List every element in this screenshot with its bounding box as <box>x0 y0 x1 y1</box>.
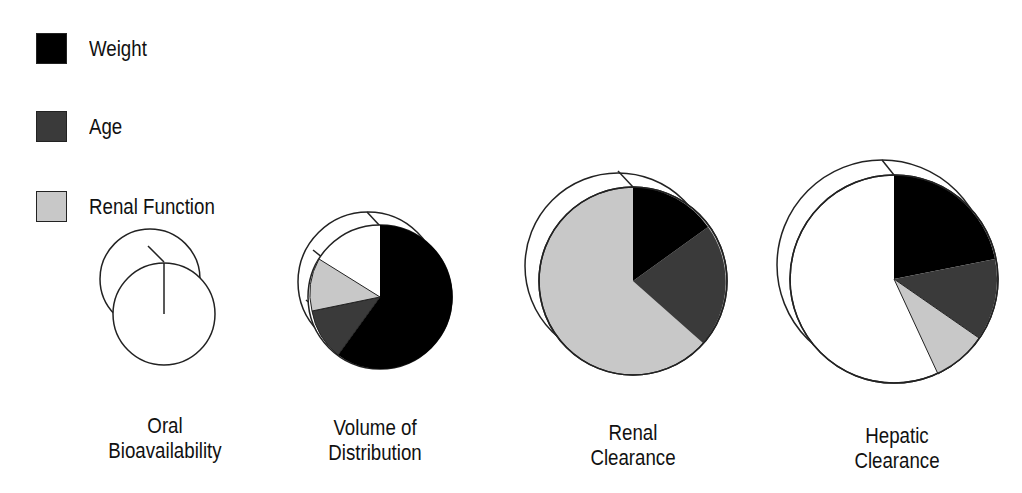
caption-line: Renal <box>565 420 701 445</box>
caption-line: Clearance <box>565 445 701 470</box>
pie-renal-clearance <box>525 171 727 375</box>
caption-volume-of-distribution: Volume of Distribution <box>307 415 443 465</box>
caption-oral-bioavailability: Oral Bioavailability <box>97 413 233 463</box>
caption-line: Volume of <box>307 415 443 440</box>
pie-hepatic-clearance <box>777 160 998 383</box>
caption-line: Distribution <box>307 440 443 465</box>
caption-renal-clearance: Renal Clearance <box>565 420 701 470</box>
caption-line: Clearance <box>829 448 965 473</box>
caption-hepatic-clearance: Hepatic Clearance <box>829 423 965 473</box>
pie-oral-bioavailability <box>100 229 215 365</box>
caption-line: Bioavailability <box>97 438 233 463</box>
caption-line: Oral <box>97 413 233 438</box>
pie-volume-of-distribution <box>298 212 453 369</box>
caption-line: Hepatic <box>829 423 965 448</box>
